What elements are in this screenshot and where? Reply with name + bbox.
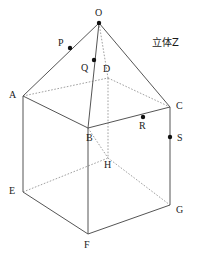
edge-A-D — [23, 78, 108, 96]
figure-caption: 立体Z — [152, 38, 179, 48]
point-label-s: S — [177, 133, 183, 143]
point-label-r: R — [139, 121, 146, 131]
edge-A-B — [23, 96, 88, 128]
point-dot-S — [168, 135, 172, 139]
vertex-label-d: D — [103, 64, 110, 74]
point-dot-Q — [92, 58, 96, 62]
edge-O-B — [88, 23, 99, 128]
point-dot-P — [68, 46, 72, 50]
point-dot-R — [141, 115, 145, 119]
vertex-label-b: B — [86, 133, 93, 143]
geometry-figure: OABCDEFGHPQRS 立体Z — [0, 0, 199, 257]
vertex-label-h: H — [104, 160, 111, 170]
edge-E-F — [23, 192, 88, 234]
point-label-q: Q — [81, 63, 88, 73]
edge-H-G — [108, 158, 170, 205]
edge-E-H — [23, 158, 108, 192]
vertex-label-c: C — [176, 101, 183, 111]
vertex-label-e: E — [9, 186, 15, 196]
edge-D-C — [108, 78, 170, 107]
point-dot-O — [97, 21, 101, 25]
vertex-label-g: G — [176, 205, 183, 215]
visible-edges-group — [23, 23, 170, 234]
edge-O-A — [23, 23, 99, 96]
edge-F-G — [88, 205, 170, 234]
vertex-label-f: F — [84, 240, 90, 250]
edge-B-C — [88, 107, 170, 128]
point-label-p: P — [58, 38, 64, 48]
vertex-label-a: A — [9, 90, 16, 100]
vertex-label-o: O — [95, 8, 102, 18]
